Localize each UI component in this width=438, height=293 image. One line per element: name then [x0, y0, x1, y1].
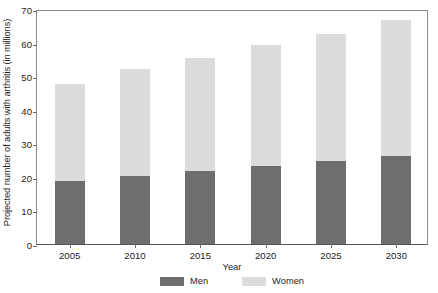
x-axis-tick-mark: [70, 244, 71, 248]
bar-segment-women[interactable]: [251, 45, 281, 166]
x-axis-tick-label: 2005: [59, 251, 80, 261]
stacked-bar[interactable]: [185, 58, 215, 244]
bar-slot: [55, 11, 85, 244]
x-axis-tick-mark: [266, 244, 267, 248]
legend-label: Women: [272, 277, 304, 286]
y-axis-title: Projected number of adults with arthriti…: [0, 0, 14, 245]
bar-segment-men[interactable]: [316, 161, 346, 244]
x-axis-tick-label: 2010: [124, 251, 145, 261]
bar-segment-women[interactable]: [55, 84, 85, 181]
bar-slot: [120, 11, 150, 244]
plot-area: 010203040506070 200520102015202020252030: [36, 10, 428, 245]
bar-segment-women[interactable]: [185, 58, 215, 171]
bar-segment-women[interactable]: [316, 34, 346, 162]
bar-segment-women[interactable]: [381, 20, 411, 156]
bar-segment-men[interactable]: [55, 181, 85, 244]
bar-group: [37, 11, 427, 244]
x-axis-tick-label: 2015: [190, 251, 211, 261]
bar-segment-men[interactable]: [185, 171, 215, 244]
bar-segment-women[interactable]: [120, 69, 150, 175]
x-axis-tick-mark: [135, 244, 136, 248]
stacked-bar[interactable]: [316, 34, 346, 244]
bar-segment-men[interactable]: [381, 156, 411, 244]
stacked-bar[interactable]: [251, 45, 281, 244]
bar-slot: [251, 11, 281, 244]
x-axis-tick-label: 2020: [255, 251, 276, 261]
legend-label: Men: [190, 277, 208, 286]
x-axis-title: Year: [36, 262, 428, 272]
legend-item[interactable]: Men: [160, 277, 208, 286]
legend-item[interactable]: Women: [242, 277, 304, 286]
bar-slot: [185, 11, 215, 244]
bar-slot: [316, 11, 346, 244]
bar-segment-men[interactable]: [120, 176, 150, 244]
x-axis-tick-label: 2025: [320, 251, 341, 261]
stacked-bar[interactable]: [55, 84, 85, 244]
x-axis-tick-mark: [396, 244, 397, 248]
legend-swatch-icon: [160, 277, 184, 286]
x-axis-tick-label: 2030: [386, 251, 407, 261]
chart-figure: Projected number of adults with arthriti…: [0, 0, 438, 293]
bar-segment-men[interactable]: [251, 166, 281, 244]
chart-legend: MenWomen: [36, 277, 428, 286]
x-axis-tick-mark: [200, 244, 201, 248]
stacked-bar[interactable]: [120, 69, 150, 244]
stacked-bar[interactable]: [381, 20, 411, 244]
y-axis-tick-mark: [33, 246, 37, 247]
bar-slot: [381, 11, 411, 244]
legend-swatch-icon: [242, 277, 266, 286]
x-axis-tick-mark: [331, 244, 332, 248]
